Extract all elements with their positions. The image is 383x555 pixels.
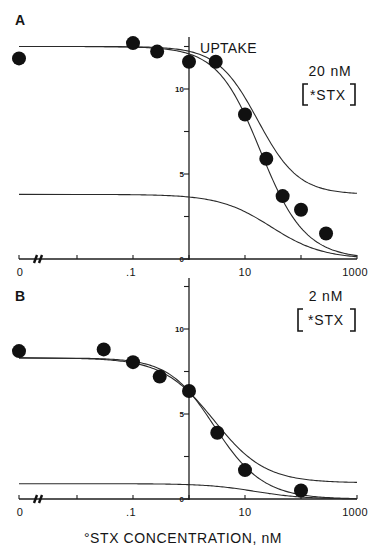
chart-title: UPTAKE xyxy=(200,40,257,56)
left-bracket-icon xyxy=(303,84,308,105)
x-tick-label: 0 xyxy=(17,506,23,518)
left-bracket-icon xyxy=(298,309,303,331)
axis-break-icon xyxy=(39,255,42,263)
panel-b: B 2 nM *STX 10 5 0 0 .1 10 1000 xyxy=(12,278,368,518)
data-point-marker xyxy=(153,370,167,384)
data-point-marker xyxy=(126,36,140,50)
y-tick-label: 10 xyxy=(175,85,184,94)
x-tick-label: .1 xyxy=(126,506,136,518)
axis-break-icon xyxy=(39,495,42,503)
curve-upper xyxy=(19,358,357,482)
data-point-marker xyxy=(12,51,26,65)
data-point-marker xyxy=(209,55,223,69)
right-bracket-icon xyxy=(350,84,355,105)
x-tick-label: 0 xyxy=(17,266,23,278)
x-tick-label: 1000 xyxy=(342,266,368,278)
data-point-marker xyxy=(238,463,252,477)
species-label: *STX xyxy=(308,312,344,328)
panel-label: A xyxy=(15,12,25,28)
x-tick-label: .1 xyxy=(126,266,136,278)
right-bracket-icon xyxy=(350,309,355,331)
concentration-label: 20 nM xyxy=(309,63,352,79)
x-tick-label: 10 xyxy=(239,266,252,278)
figure: A UPTAKE 20 nM *STX 10 5 0 0 .1 10 1000 … xyxy=(0,0,383,555)
panel-label: B xyxy=(15,288,25,304)
curve-total-fit xyxy=(19,358,357,499)
panel-a: A UPTAKE 20 nM *STX 10 5 0 0 .1 10 1000 xyxy=(12,12,368,278)
x-tick-label: 10 xyxy=(239,506,252,518)
data-point-marker xyxy=(210,426,224,440)
data-point-marker xyxy=(126,355,140,369)
axis-break-icon xyxy=(34,255,37,263)
concentration-label: 2 nM xyxy=(309,288,343,304)
x-tick-label: 1000 xyxy=(342,506,368,518)
data-point-marker xyxy=(97,342,111,356)
axis-break-icon xyxy=(34,495,37,503)
data-point-marker xyxy=(259,152,273,166)
data-point-marker xyxy=(276,189,290,203)
curve-lower xyxy=(19,194,357,256)
data-point-marker xyxy=(182,384,196,398)
data-point-marker xyxy=(319,227,333,241)
data-point-marker xyxy=(238,108,252,122)
species-label: *STX xyxy=(310,87,346,103)
data-point-marker xyxy=(150,45,164,59)
data-point-marker xyxy=(182,55,196,69)
data-point-marker xyxy=(12,344,26,358)
data-point-marker xyxy=(294,203,308,217)
y-tick-label: 5 xyxy=(180,170,185,179)
x-axis-label: °STX CONCENTRATION, nM xyxy=(84,530,282,546)
y-tick-label: 10 xyxy=(175,325,184,334)
curve-total-fit xyxy=(19,47,357,256)
y-tick-label: 5 xyxy=(180,410,185,419)
data-point-marker xyxy=(294,484,308,498)
